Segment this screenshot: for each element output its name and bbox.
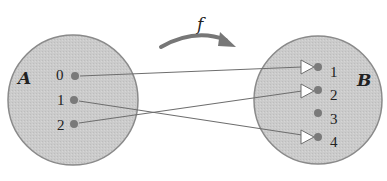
set-b-element-4: 4 bbox=[330, 134, 338, 150]
function-arrow: f bbox=[161, 14, 236, 47]
set-b-dot-4 bbox=[314, 133, 322, 141]
set-a-element-1: 1 bbox=[57, 92, 65, 108]
diagram-canvas: A 0 1 2 B 1 2 3 4 f bbox=[0, 0, 387, 181]
set-a-element-2: 2 bbox=[57, 117, 65, 133]
set-b-dot-1 bbox=[314, 63, 322, 71]
set-a-element-0: 0 bbox=[56, 67, 64, 83]
set-a-dot-2 bbox=[70, 120, 78, 128]
set-b-circle bbox=[254, 36, 382, 164]
set-b-dot-3 bbox=[314, 109, 322, 117]
function-diagram: A 0 1 2 B 1 2 3 4 f bbox=[0, 0, 387, 181]
function-arc bbox=[161, 35, 226, 47]
set-b-element-3: 3 bbox=[330, 111, 338, 127]
set-b-element-1: 1 bbox=[330, 64, 338, 80]
set-a-dot-0 bbox=[71, 72, 79, 80]
set-a-dot-1 bbox=[70, 96, 78, 104]
function-label: f bbox=[195, 14, 206, 34]
set-a-label: A bbox=[16, 68, 31, 88]
set-b-label: B bbox=[356, 70, 371, 90]
function-arrowhead-icon bbox=[218, 32, 236, 47]
set-b-element-2: 2 bbox=[330, 87, 338, 103]
set-b: B 1 2 3 4 bbox=[254, 36, 382, 164]
set-b-dot-2 bbox=[314, 86, 322, 94]
set-a: A 0 1 2 bbox=[8, 35, 138, 165]
